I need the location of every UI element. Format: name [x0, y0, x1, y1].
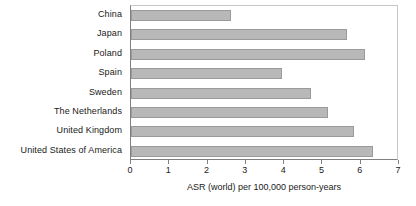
bar — [131, 146, 373, 157]
bar — [131, 49, 365, 60]
x-axis-tick-label: 5 — [319, 164, 324, 177]
y-axis-category-labels: ChinaJapanPolandSpainSwedenThe Netherlan… — [0, 5, 126, 160]
bar — [131, 88, 311, 99]
bar — [131, 68, 282, 79]
bar-row — [131, 142, 399, 161]
bar-row — [131, 64, 399, 83]
x-axis-tick-label: 7 — [395, 164, 400, 177]
x-axis-tick-label: 2 — [204, 164, 209, 177]
bar-row — [131, 6, 399, 25]
y-axis-label: Sweden — [89, 83, 122, 102]
bar — [131, 10, 231, 21]
y-axis-label: Spain — [98, 63, 122, 82]
bar-row — [131, 122, 399, 141]
bar — [131, 126, 354, 137]
y-axis-label: United Kingdom — [57, 121, 122, 140]
plot-area — [130, 5, 398, 160]
x-axis-tick-labels: 01234567 — [130, 164, 398, 178]
bars-layer — [131, 6, 397, 159]
bar — [131, 107, 328, 118]
x-axis-tick-label: 3 — [242, 164, 247, 177]
bar-row — [131, 84, 399, 103]
bar-chart: ChinaJapanPolandSpainSwedenThe Netherlan… — [0, 0, 416, 206]
x-axis-tick-label: 4 — [281, 164, 286, 177]
x-axis-tick-label: 1 — [166, 164, 171, 177]
bar — [131, 29, 347, 40]
y-axis-label: The Netherlands — [54, 102, 122, 121]
x-axis-title: ASR (world) per 100,000 person-years — [130, 181, 398, 194]
y-axis-label: Japan — [97, 24, 122, 43]
y-axis-label: Poland — [93, 44, 122, 63]
x-axis-tick-label: 6 — [357, 164, 362, 177]
bar-row — [131, 25, 399, 44]
bar-row — [131, 103, 399, 122]
bar-row — [131, 45, 399, 64]
x-axis-tick-label: 0 — [127, 164, 132, 177]
y-axis-label: United States of America — [21, 141, 122, 160]
y-axis-label: China — [98, 5, 122, 24]
